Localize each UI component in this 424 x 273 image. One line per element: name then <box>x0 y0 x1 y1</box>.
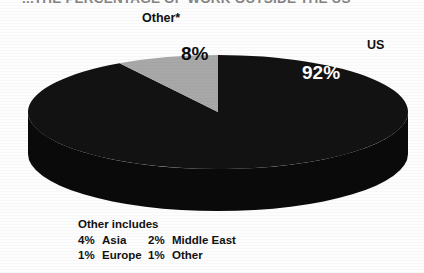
legend-row: 4%Asia2%Middle East <box>78 233 236 248</box>
legend-label: Middle East <box>172 233 236 248</box>
us-callout-label: US <box>367 38 384 52</box>
legend-percent: 1% <box>78 248 102 263</box>
legend-percent: 1% <box>148 248 172 263</box>
pie-chart-figure: ...THE PERCENTAGE OF WORK OUTSIDE THE US… <box>0 0 424 273</box>
legend-entry: 4%Asia <box>78 233 148 248</box>
legend-percent: 4% <box>78 233 102 248</box>
legend-row: 1%Europe1%Other <box>78 248 236 263</box>
legend-rows: 4%Asia2%Middle East1%Europe1%Other <box>78 233 236 263</box>
legend-label: Asia <box>102 233 126 248</box>
us-slice-value: 92% <box>302 62 340 84</box>
other-slice-value: 8% <box>181 43 208 65</box>
legend-label: Other <box>172 248 203 263</box>
legend-label: Europe <box>102 248 142 263</box>
legend-title: Other includes <box>78 217 236 232</box>
legend-entry: 2%Middle East <box>148 233 236 248</box>
legend-percent: 2% <box>148 233 172 248</box>
other-callout-label: Other* <box>142 11 180 25</box>
legend-entry: 1%Europe <box>78 248 148 263</box>
legend-entry: 1%Other <box>148 248 203 263</box>
legend: Other includes 4%Asia2%Middle East1%Euro… <box>78 217 236 263</box>
